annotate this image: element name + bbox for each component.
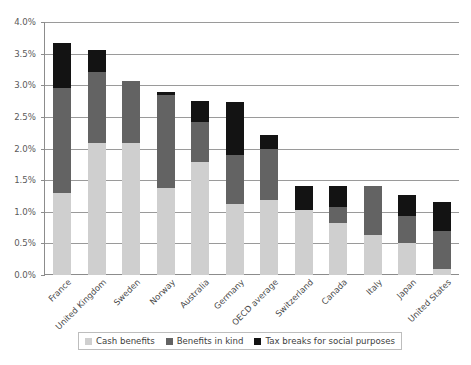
legend-label: Benefits in kind	[177, 336, 244, 346]
bar-segment-kind	[122, 81, 140, 142]
bar-segment-kind	[329, 207, 347, 223]
x-axis-tick-label: Australia	[178, 277, 211, 310]
bar-column	[157, 92, 175, 275]
x-axis-tick-label: Italy	[364, 277, 384, 297]
x-axis-labels: FranceUnited KingdomSwedenNorwayAustrali…	[45, 277, 459, 337]
y-axis-tick-label: 4.0%	[14, 17, 36, 27]
bar-segment-tax	[295, 186, 313, 210]
bar-column	[191, 101, 209, 275]
bar-segment-kind	[364, 186, 382, 234]
legend-item: Tax breaks for social purposes	[254, 336, 395, 346]
bar-column	[53, 43, 71, 275]
y-axis-tick-label: 2.5%	[14, 112, 36, 122]
x-axis-tick-label: Canada	[320, 277, 350, 307]
bar-column	[398, 195, 416, 275]
bar-segment-kind	[157, 95, 175, 188]
bar-segment-cash	[157, 188, 175, 275]
y-axis-tick-label: 1.5%	[14, 175, 36, 185]
y-axis-labels: 0.0%0.5%1.0%1.5%2.0%2.5%3.0%3.5%4.0%	[0, 22, 40, 275]
x-axis-tick-label: France	[47, 277, 74, 304]
bar-segment-cash	[329, 223, 347, 275]
bar-segment-tax	[88, 50, 106, 72]
bar-column	[122, 81, 140, 275]
bar-segment-cash	[433, 269, 451, 275]
bar-segment-cash	[398, 243, 416, 275]
x-axis-tick-label: Norway	[147, 277, 177, 307]
legend-item: Cash benefits	[85, 336, 155, 346]
bar-column	[88, 50, 106, 275]
x-axis-tick-label: Germany	[212, 277, 246, 311]
bar-segment-tax	[398, 195, 416, 216]
bar-segment-cash	[191, 162, 209, 275]
legend-swatch-kind-icon	[166, 338, 173, 345]
x-axis-tick-label: Japan	[395, 277, 419, 301]
bar-segment-cash	[122, 143, 140, 275]
chart-legend: Cash benefitsBenefits in kindTax breaks …	[78, 332, 402, 350]
bar-segment-tax	[329, 186, 347, 206]
bar-segment-kind	[433, 231, 451, 270]
legend-item: Benefits in kind	[166, 336, 244, 346]
bar-column	[433, 202, 451, 275]
y-axis-tick-label: 0.5%	[14, 238, 36, 248]
bar-column	[364, 186, 382, 275]
bar-segment-kind	[88, 72, 106, 143]
bar-segment-tax	[226, 102, 244, 155]
bar-segment-kind	[398, 216, 416, 244]
y-axis-tick	[41, 275, 45, 276]
bars-layer	[45, 22, 459, 275]
bar-segment-cash	[295, 210, 313, 275]
bar-segment-cash	[260, 200, 278, 275]
y-axis-tick-label: 2.0%	[14, 144, 36, 154]
bar-segment-tax	[191, 101, 209, 122]
bar-segment-cash	[226, 204, 244, 275]
bar-column	[226, 102, 244, 275]
bar-segment-kind	[191, 122, 209, 162]
legend-label: Cash benefits	[96, 336, 155, 346]
x-axis-tick-label: Sweden	[112, 277, 142, 307]
bar-segment-cash	[364, 235, 382, 275]
bar-segment-tax	[157, 92, 175, 96]
bar-segment-tax	[260, 135, 278, 148]
y-axis-tick-label: 1.0%	[14, 207, 36, 217]
bar-column	[295, 186, 313, 275]
bar-segment-kind	[260, 149, 278, 200]
legend-label: Tax breaks for social purposes	[265, 336, 395, 346]
bar-segment-tax	[53, 43, 71, 88]
y-axis-tick-label: 0.0%	[14, 270, 36, 280]
legend-swatch-cash-icon	[85, 338, 92, 345]
y-axis-tick-label: 3.0%	[14, 80, 36, 90]
bar-segment-cash	[53, 193, 71, 275]
bar-segment-kind	[53, 88, 71, 193]
bar-segment-cash	[88, 143, 106, 275]
stacked-bar-chart: 0.0%0.5%1.0%1.5%2.0%2.5%3.0%3.5%4.0% Fra…	[0, 0, 471, 365]
bar-segment-kind	[226, 155, 244, 204]
bar-segment-tax	[433, 202, 451, 231]
y-axis-tick-label: 3.5%	[14, 49, 36, 59]
bar-column	[260, 135, 278, 275]
bar-column	[329, 186, 347, 275]
legend-swatch-tax-icon	[254, 338, 261, 345]
